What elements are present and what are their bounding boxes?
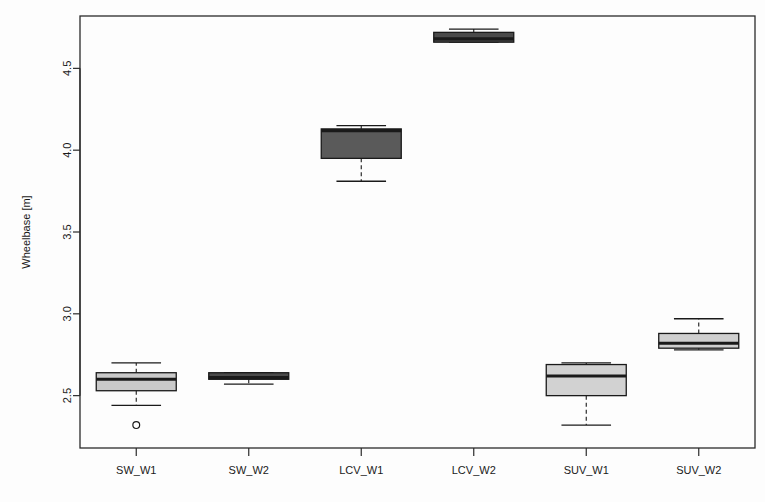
outlier-point [133,422,140,429]
boxplot-sw_w2 [209,373,289,384]
box-iqr [546,365,626,396]
x-axis-tick-label-lcv_w1: LCV_W1 [339,464,383,476]
y-axis-tick-label: 4.0 [61,143,73,158]
x-axis-tick-label-sw_w1: SW_W1 [116,464,156,476]
box-iqr [321,129,401,158]
x-axis-tick-label-suv_w2: SUV_W2 [676,464,721,476]
box-iqr [96,373,176,391]
y-axis-tick-label: 4.5 [61,61,73,76]
x-axis-tick-label-sw_w2: SW_W2 [229,464,269,476]
y-axis-tick-label: 3.5 [61,224,73,239]
boxplot-suv_w1 [546,363,626,425]
box-iqr [434,32,514,42]
boxplot-sw_w1 [96,363,176,429]
x-axis-tick-label-suv_w1: SUV_W1 [564,464,609,476]
chart-root: 2.53.03.54.04.5Wheelbase [m]SW_W1SW_W2LC… [0,0,765,502]
box-iqr [659,333,739,348]
x-axis-tick-label-lcv_w2: LCV_W2 [452,464,496,476]
y-axis-title: Wheelbase [m] [20,195,32,268]
boxplot-lcv_w1 [321,126,401,182]
boxplot-lcv_w2 [434,29,514,42]
y-axis-tick-label: 3.0 [61,306,73,321]
boxplot-figure: 2.53.03.54.04.5Wheelbase [m]SW_W1SW_W2LC… [0,0,765,502]
plot-frame [80,16,755,448]
y-axis-tick-label: 2.5 [61,388,73,403]
boxplot-suv_w2 [659,319,739,350]
